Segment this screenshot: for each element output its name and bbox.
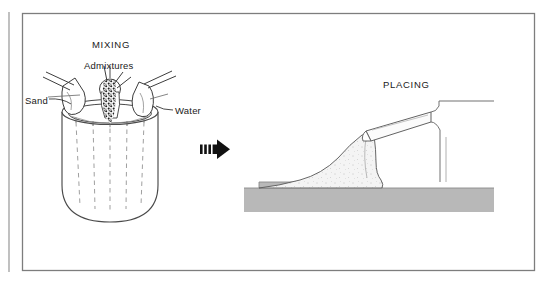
figure-border — [23, 14, 535, 271]
figure-container: MIXING Admixtures Sand Water — [0, 0, 548, 285]
diagram-canvas: MIXING Admixtures Sand Water — [0, 0, 548, 285]
sand-chute — [43, 72, 85, 115]
mix-fall-lines — [76, 120, 144, 211]
placing-illustration: PLACING — [244, 79, 494, 212]
label-water: Water — [175, 105, 201, 116]
label-sand: Sand — [25, 95, 48, 106]
truck-chute — [362, 112, 431, 141]
truck-body — [431, 101, 494, 182]
mixing-illustration: MIXING Admixtures Sand Water — [25, 39, 201, 222]
label-admixtures: Admixtures — [84, 60, 134, 71]
leader-water — [156, 106, 173, 110]
mixing-title: MIXING — [92, 39, 130, 50]
placing-title: PLACING — [383, 79, 430, 90]
process-flow-arrow — [200, 140, 230, 160]
concrete-pour — [259, 135, 383, 188]
